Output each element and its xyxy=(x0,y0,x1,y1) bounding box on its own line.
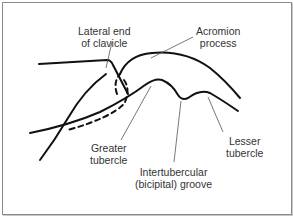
label-lateral-end-of-clavicle: Lateral end of clavicle xyxy=(78,25,131,49)
leader-lesser-tubercle xyxy=(208,97,223,132)
label-line: Lesser xyxy=(226,135,263,147)
leader-acromion xyxy=(151,37,193,58)
label-lesser-tubercle: Lesser tubercle xyxy=(226,135,263,159)
leader-intertubercular xyxy=(174,101,181,162)
label-line: Acromion xyxy=(196,25,240,37)
label-greater-tubercle: Greater tubercle xyxy=(90,142,127,166)
label-line: tubercle xyxy=(90,154,127,166)
label-line: of clavicle xyxy=(78,37,131,49)
label-line: (bicipital) groove xyxy=(135,178,212,190)
label-line: Greater xyxy=(90,142,127,154)
clavicle-outline xyxy=(39,60,128,94)
leader-greater-tubercle xyxy=(121,86,151,140)
label-line: Lateral end xyxy=(78,25,131,37)
humerus-upper-outline xyxy=(30,80,238,133)
label-line: process xyxy=(196,37,240,49)
label-line: tubercle xyxy=(226,147,263,159)
label-line: Intertubercular xyxy=(135,166,212,178)
label-intertubercular-groove: Intertubercular (bicipital) groove xyxy=(135,166,212,190)
label-acromion-process: Acromion process xyxy=(196,25,240,49)
